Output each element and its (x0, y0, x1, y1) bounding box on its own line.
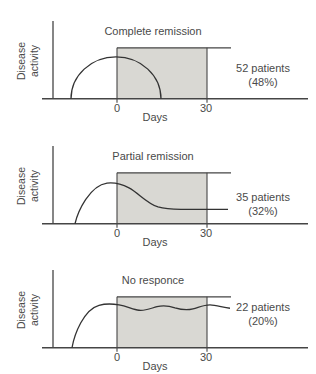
patient-count-annotation: 35 patients (32%) (225, 190, 301, 218)
tick-label-30: 30 (194, 351, 218, 363)
y-axis-label: Disease activity (15, 33, 43, 89)
patient-count-annotation: 22 patients (20%) (225, 300, 301, 328)
panel-title: Partial remission (53, 150, 253, 162)
x-axis-label: Days (115, 236, 195, 248)
x-axis-label: Days (115, 360, 195, 372)
treatment-window-shading (117, 173, 207, 224)
x-axis-label: Days (115, 111, 195, 123)
y-axis-label: Disease activity (15, 282, 43, 338)
tick-label-30: 30 (194, 227, 218, 239)
panel-title: No responce (53, 274, 253, 286)
panel-no-response: No responce Disease activity 0 30 Days 2… (0, 249, 316, 374)
figure-remission-panels: Complete remission Disease activity 0 30… (0, 0, 316, 374)
panel-partial-remission: Partial remission Disease activity 0 30 … (0, 125, 316, 250)
y-axis-label: Disease activity (15, 158, 43, 214)
tick-label-30: 30 (194, 102, 218, 114)
panel-title: Complete remission (53, 25, 253, 37)
patient-count-annotation: 52 patients (48%) (225, 61, 301, 89)
plot-partial-remission (0, 125, 316, 250)
panel-complete-remission: Complete remission Disease activity 0 30… (0, 0, 316, 125)
treatment-window-shading (117, 297, 207, 348)
treatment-window-shading (117, 48, 207, 99)
